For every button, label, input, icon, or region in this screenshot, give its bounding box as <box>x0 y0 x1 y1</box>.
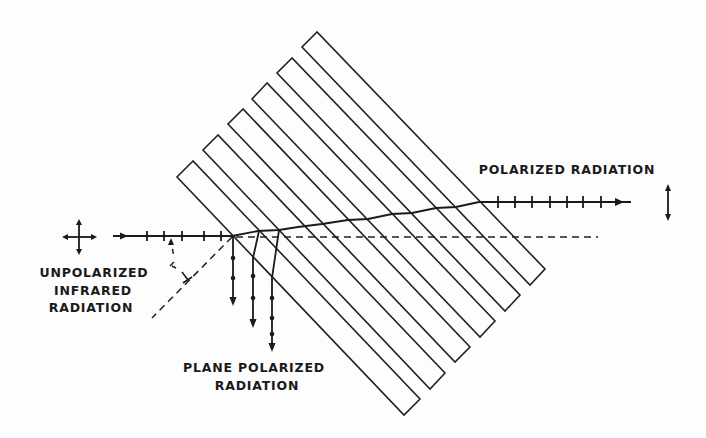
label-radiation-incident: RADIATION <box>49 300 134 315</box>
label-polarized-radiation: POLARIZED RADIATION <box>479 162 656 177</box>
diagram-canvas: UNPOLARIZED INFRARED RADIATION POLARIZED… <box>0 0 706 438</box>
label-radiation-reflected: RADIATION <box>215 378 300 393</box>
reflected-ray-1 <box>230 237 237 306</box>
label-unpolarized: UNPOLARIZED <box>39 265 148 280</box>
label-plane-polarized: PLANE POLARIZED <box>183 360 325 375</box>
incident-beam <box>113 231 233 241</box>
reflected-ray-3 <box>269 230 280 352</box>
polarized-output-beam <box>479 196 631 208</box>
label-infrared: INFRARED <box>54 283 132 298</box>
unpolarized-symbol-icon <box>62 219 97 255</box>
reflected-ray-2 <box>250 231 260 328</box>
plate-stack <box>177 32 545 415</box>
angle-of-incidence-marker <box>152 237 232 318</box>
polarizer-diagram: UNPOLARIZED INFRARED RADIATION POLARIZED… <box>0 0 706 438</box>
vertical-polarization-icon <box>665 184 671 221</box>
